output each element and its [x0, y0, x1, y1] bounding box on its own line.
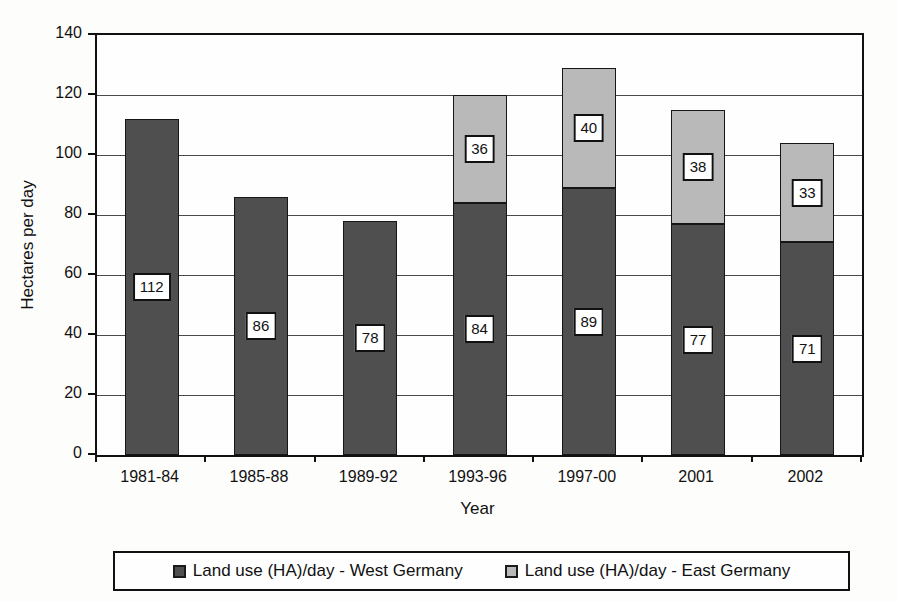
legend-label: Land use (HA)/day - East Germany — [525, 561, 791, 581]
x-tick-mark-6 — [751, 455, 753, 462]
bar-value-label: 77 — [683, 326, 714, 354]
x-tick-label: 1985-88 — [204, 466, 313, 488]
x-axis-title: Year — [95, 498, 860, 520]
x-tick-mark-7 — [860, 455, 862, 462]
bar-value-label: 86 — [246, 312, 277, 340]
plot-area: 11286788436894077387133 — [95, 33, 864, 457]
y-tick-label: 60 — [0, 263, 82, 283]
legend-item: Land use (HA)/day - East Germany — [505, 561, 791, 581]
x-tick-mark-1 — [204, 455, 206, 462]
x-tick-label: 1981-84 — [95, 466, 204, 488]
legend-item: Land use (HA)/day - West Germany — [173, 561, 463, 581]
y-tick-label: 100 — [0, 143, 82, 163]
y-tick-mark-140 — [88, 33, 96, 35]
x-tick-label: 2001 — [641, 466, 750, 488]
legend: Land use (HA)/day - West GermanyLand use… — [113, 551, 850, 591]
y-tick-mark-20 — [88, 393, 96, 395]
x-tick-label: 2002 — [751, 466, 860, 488]
bar-value-label: 71 — [792, 335, 823, 363]
legend-swatch-icon — [173, 565, 186, 578]
y-tick-label: 120 — [0, 83, 82, 103]
x-tick-mark-0 — [95, 455, 97, 462]
y-axis-title: Hectares per day — [17, 178, 39, 312]
x-tick-mark-2 — [314, 455, 316, 462]
bar-value-label: 84 — [464, 315, 495, 343]
x-tick-mark-5 — [641, 455, 643, 462]
bar-value-label: 38 — [683, 153, 714, 181]
bar-value-label: 78 — [355, 324, 386, 352]
y-tick-label: 20 — [0, 383, 82, 403]
bar-value-label: 89 — [573, 308, 604, 336]
x-tick-label: 1993-96 — [423, 466, 532, 488]
y-tick-mark-80 — [88, 213, 96, 215]
y-tick-label: 0 — [0, 443, 82, 463]
y-tick-mark-100 — [88, 153, 96, 155]
y-tick-mark-60 — [88, 273, 96, 275]
y-tick-mark-120 — [88, 93, 96, 95]
x-tick-mark-3 — [423, 455, 425, 462]
y-tick-label: 40 — [0, 323, 82, 343]
legend-label: Land use (HA)/day - West Germany — [193, 561, 463, 581]
x-tick-mark-4 — [532, 455, 534, 462]
y-tick-mark-40 — [88, 333, 96, 335]
chart-figure: Hectares per day 11286788436894077387133… — [0, 0, 898, 602]
bar-value-label: 112 — [133, 273, 171, 301]
y-tick-label: 140 — [0, 23, 82, 43]
bar-value-label: 33 — [792, 179, 823, 207]
x-tick-label: 1989-92 — [314, 466, 423, 488]
legend-swatch-icon — [505, 565, 518, 578]
bar-value-label: 40 — [573, 114, 604, 142]
bar-value-label: 36 — [464, 135, 495, 163]
x-tick-label: 1997-00 — [532, 466, 641, 488]
y-tick-label: 80 — [0, 203, 82, 223]
